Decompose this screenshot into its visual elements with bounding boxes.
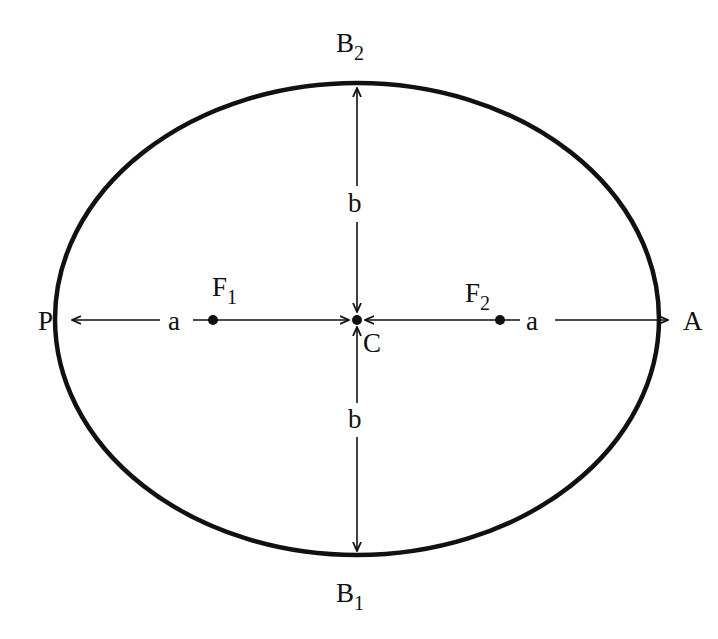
center-dot bbox=[352, 315, 362, 325]
focus-2-dot bbox=[495, 315, 505, 325]
label-P: P bbox=[38, 306, 53, 336]
ellipse-diagram: P A C F1 F2 B2 B1 a a b b bbox=[0, 0, 718, 639]
label-a-right: a bbox=[526, 306, 538, 336]
label-A: A bbox=[683, 306, 703, 336]
label-b-top: b bbox=[348, 188, 362, 218]
focus-1-dot bbox=[208, 315, 218, 325]
label-b-bottom: b bbox=[348, 404, 362, 434]
label-a-left: a bbox=[168, 306, 180, 336]
diagram-canvas: P A C F1 F2 B2 B1 a a b b bbox=[0, 0, 718, 639]
label-F1: F1 bbox=[212, 272, 237, 308]
label-B1: B1 bbox=[336, 578, 364, 614]
label-F2: F2 bbox=[465, 278, 490, 314]
label-B2: B2 bbox=[336, 28, 364, 64]
label-C: C bbox=[363, 328, 381, 358]
